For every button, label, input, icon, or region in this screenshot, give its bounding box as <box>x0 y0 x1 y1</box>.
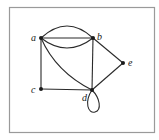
node-c <box>39 87 43 91</box>
edge-a-d-curve <box>41 38 92 90</box>
graph-diagram: a b c d e <box>0 0 159 140</box>
edge-a-b-arc-down <box>41 38 93 48</box>
figure-frame <box>10 8 155 133</box>
node-e <box>121 61 125 65</box>
edge-a-b-arc-up <box>41 26 93 38</box>
node-a <box>39 36 43 40</box>
node-d <box>90 88 94 92</box>
edge-d-loop <box>88 90 100 112</box>
label-a: a <box>31 32 36 43</box>
edge-c-d <box>41 89 92 90</box>
edge-d-e <box>92 63 123 90</box>
label-b: b <box>97 31 102 42</box>
label-e: e <box>128 57 133 68</box>
edge-b-d <box>92 38 93 90</box>
node-b <box>91 36 95 40</box>
label-c: c <box>31 84 36 95</box>
